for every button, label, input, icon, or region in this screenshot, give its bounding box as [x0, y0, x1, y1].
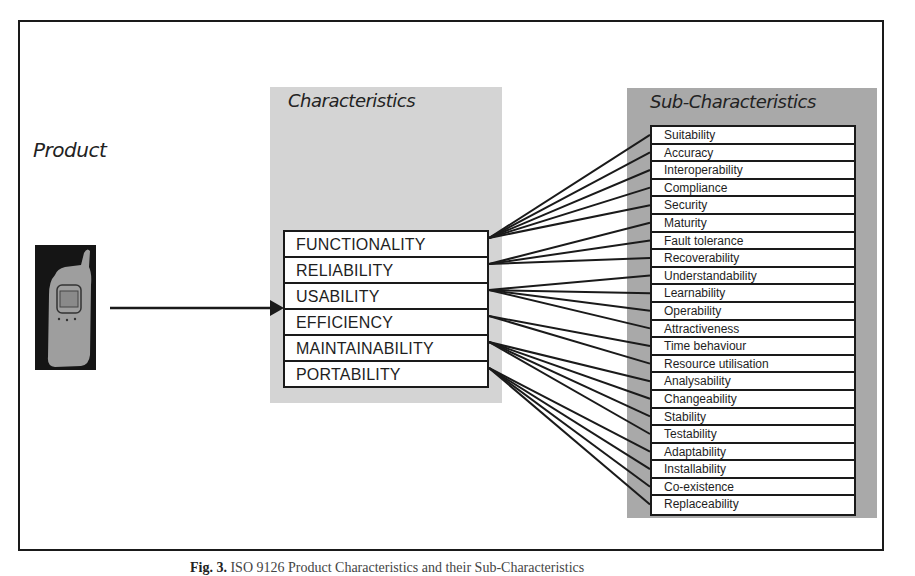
sub-characteristic-item: Recoverability: [652, 250, 854, 268]
sub-characteristic-item: Changeability: [652, 391, 854, 409]
mobile-phone-icon: [35, 245, 96, 370]
sub-characteristics-list: Suitability Accuracy Interoperability Co…: [650, 125, 856, 516]
characteristic-maintainability: MAINTAINABILITY: [285, 336, 487, 362]
sub-characteristic-item: Learnability: [652, 285, 854, 303]
sub-characteristic-item: Accuracy: [652, 145, 854, 163]
caption-text: ISO 9126 Product Characteristics and the…: [230, 560, 584, 575]
sub-characteristic-item: Attractiveness: [652, 321, 854, 339]
sub-characteristic-item: Interoperability: [652, 162, 854, 180]
sub-characteristic-item: Analysability: [652, 373, 854, 391]
mobile-phone-graphic: [35, 245, 96, 370]
sub-characteristic-item: Installability: [652, 461, 854, 479]
figure-caption: Fig. 3. ISO 9126 Product Characteristics…: [190, 560, 584, 576]
caption-prefix: Fig. 3.: [190, 560, 227, 575]
sub-characteristic-item: Maturity: [652, 215, 854, 233]
sub-characteristic-item: Compliance: [652, 180, 854, 198]
sub-characteristic-item: Suitability: [652, 127, 854, 145]
product-label: Product: [33, 138, 106, 162]
sub-characteristic-item: Fault tolerance: [652, 233, 854, 251]
sub-characteristic-item: Testability: [652, 426, 854, 444]
characteristic-functionality: FUNCTIONALITY: [285, 232, 487, 258]
sub-characteristics-title: Sub-Characteristics: [650, 91, 816, 112]
sub-characteristic-item: Understandability: [652, 268, 854, 286]
sub-characteristic-item: Replaceability: [652, 496, 854, 514]
sub-characteristic-item: Adaptability: [652, 444, 854, 462]
sub-characteristic-item: Stability: [652, 409, 854, 427]
characteristic-reliability: RELIABILITY: [285, 258, 487, 284]
characteristic-usability: USABILITY: [285, 284, 487, 310]
sub-characteristic-item: Time behaviour: [652, 338, 854, 356]
sub-characteristic-item: Security: [652, 197, 854, 215]
characteristics-list: FUNCTIONALITY RELIABILITY USABILITY EFFI…: [283, 230, 489, 388]
characteristics-title: Characteristics: [288, 90, 415, 111]
sub-characteristic-item: Operability: [652, 303, 854, 321]
sub-characteristic-item: Resource utilisation: [652, 356, 854, 374]
characteristic-portability: PORTABILITY: [285, 362, 487, 386]
sub-characteristic-item: Co-existence: [652, 479, 854, 497]
characteristic-efficiency: EFFICIENCY: [285, 310, 487, 336]
